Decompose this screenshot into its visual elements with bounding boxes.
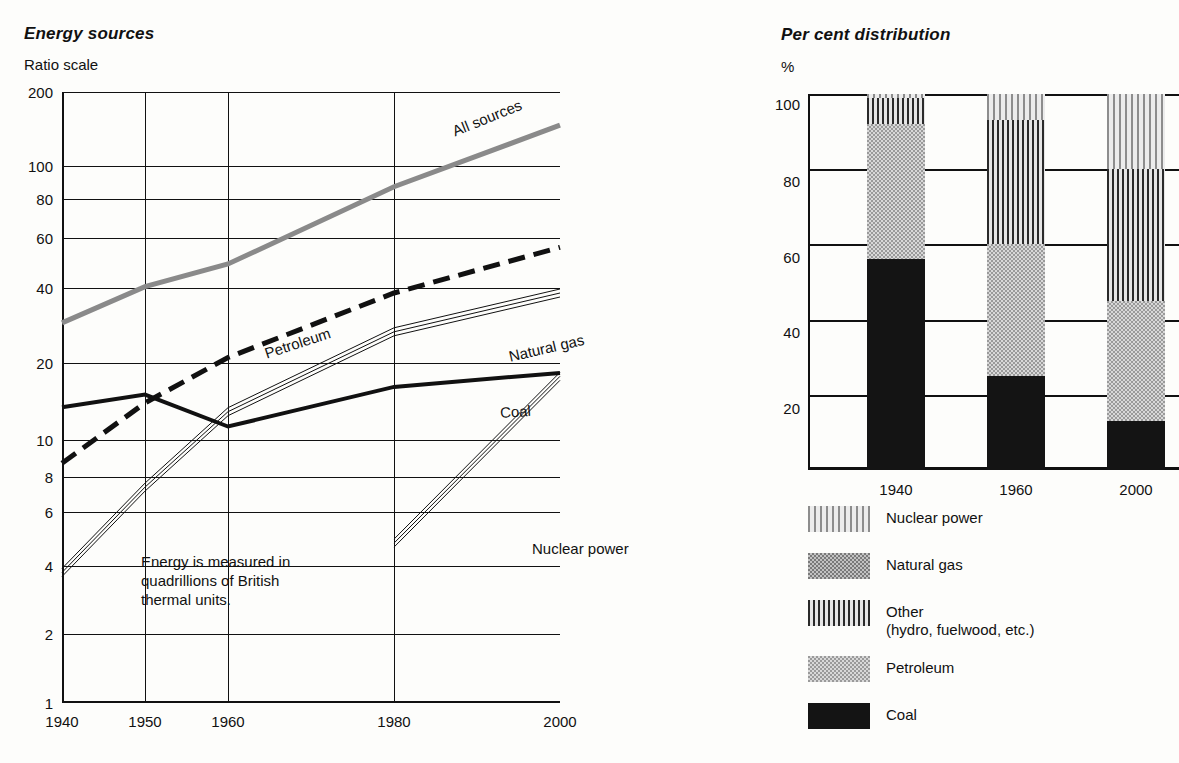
legend-label-natural-gas: Natural gas — [886, 556, 963, 573]
chart-note-line-1: Energy is measured in — [141, 552, 290, 571]
bar-segment-coal-1960 — [987, 376, 1045, 470]
line-petroleum — [62, 247, 560, 463]
line-nuclear-power — [394, 372, 560, 539]
xtick-1950: 1950 — [128, 713, 161, 730]
left-axis-unit-label: Ratio scale — [24, 56, 98, 73]
ytick-4: 4 — [45, 558, 53, 575]
line-nuclear-power — [394, 380, 560, 547]
ytick-100: 100 — [28, 158, 53, 175]
xtick-1940: 1940 — [45, 713, 78, 730]
bar-segment-other-hydro-fuelwood-etc--2000 — [1107, 169, 1165, 301]
left-chart-title: Energy sources — [24, 24, 154, 44]
ytick-200: 200 — [28, 84, 53, 101]
per-cent-distribution-panel: Per cent distribution % 100 80 60 40 20 … — [770, 0, 1179, 763]
chart-note-line-3: thermal units. — [141, 590, 290, 609]
series-label-coal: Coal — [499, 402, 531, 421]
bar-ytick-100: 100 — [775, 96, 800, 113]
bar-ytick-60: 60 — [783, 249, 800, 266]
energy-sources-panel: Energy sources Ratio scale 200 100 80 60… — [0, 0, 720, 763]
ytick-40: 40 — [36, 280, 53, 297]
line-chart-plot-area: 200 100 80 60 40 20 10 8 6 4 2 1 1940 19… — [62, 92, 560, 703]
bar-chart-y-axis — [808, 94, 810, 470]
bar-segment-nuclear-power-1940 — [867, 94, 925, 98]
ytick-60: 60 — [36, 230, 53, 247]
legend-swatch-nuclear-power — [808, 506, 870, 532]
bar-segment-petroleum-2000 — [1107, 301, 1165, 421]
bar-segment-other-hydro-fuelwood-etc--1960 — [987, 120, 1045, 244]
bar-segment-petroleum-1940 — [867, 124, 925, 259]
line-nuclear-power — [394, 376, 560, 543]
legend-label-other: Other — [886, 603, 1034, 621]
bar-xtick-1960: 1960 — [999, 481, 1032, 498]
right-axis-unit-label: % — [781, 58, 794, 75]
line-coal — [62, 373, 560, 427]
bar-ytick-80: 80 — [783, 173, 800, 190]
chart-note-line-2: quadrillions of British — [141, 571, 290, 590]
legend-item-natural-gas[interactable]: Natural gas — [808, 553, 963, 579]
bar-ytick-40: 40 — [783, 324, 800, 341]
xtick-2000: 2000 — [543, 713, 576, 730]
legend-swatch-petroleum — [808, 656, 870, 682]
xtick-1980: 1980 — [377, 713, 410, 730]
legend-item-petroleum[interactable]: Petroleum — [808, 656, 954, 682]
ytick-8: 8 — [45, 469, 53, 486]
ytick-80: 80 — [36, 191, 53, 208]
legend-swatch-natural-gas — [808, 553, 870, 579]
legend-label-petroleum: Petroleum — [886, 659, 954, 676]
line-all-sources — [62, 125, 560, 323]
bar-segment-petroleum-1960 — [987, 244, 1045, 376]
bar-segment-coal-2000 — [1107, 421, 1165, 470]
chart-note: Energy is measured in quadrillions of Br… — [141, 552, 290, 610]
bar-xtick-1940: 1940 — [879, 481, 912, 498]
bar-segment-nuclear-power-2000 — [1107, 94, 1165, 169]
bar-segment-other-hydro-fuelwood-etc--1940 — [867, 98, 925, 124]
line-series-group — [62, 92, 560, 703]
series-label-nuclear-power: Nuclear power — [532, 540, 629, 557]
legend-item-coal[interactable]: Coal — [808, 703, 917, 729]
bar-ytick-20: 20 — [783, 400, 800, 417]
ytick-2: 2 — [45, 626, 53, 643]
ytick-20: 20 — [36, 355, 53, 372]
legend-item-nuclear-power[interactable]: Nuclear power — [808, 506, 983, 532]
bar-segment-nuclear-power-1960 — [987, 94, 1045, 120]
bar-segment-coal-1940 — [867, 259, 925, 470]
xtick-1960: 1960 — [211, 713, 244, 730]
legend-swatch-other — [808, 600, 870, 626]
legend-label-nuclear-power: Nuclear power — [886, 509, 983, 526]
ytick-6: 6 — [45, 504, 53, 521]
legend-item-other[interactable]: Other (hydro, fuelwood, etc.) — [808, 600, 1034, 639]
legend-label-coal: Coal — [886, 706, 917, 723]
ytick-10: 10 — [36, 432, 53, 449]
bar-xtick-2000: 2000 — [1119, 481, 1152, 498]
bar-chart-plot-area: 100 80 60 40 20 1940 1960 2000 — [808, 94, 1179, 470]
legend-swatch-coal — [808, 703, 870, 729]
right-chart-title: Per cent distribution — [781, 25, 951, 45]
legend-sublabel-other: (hydro, fuelwood, etc.) — [886, 621, 1034, 639]
ytick-1: 1 — [45, 695, 53, 712]
